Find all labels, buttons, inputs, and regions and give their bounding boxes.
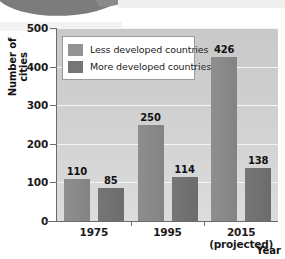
y-axis-tick-label-wrap: 100: [10, 176, 48, 188]
chart-legend: Less developed countries More developed …: [62, 36, 195, 80]
y-axis-tick-label: 500: [18, 22, 48, 34]
x-axis-tick-label: 1975: [57, 226, 131, 238]
legend-label-less-developed: Less developed countries: [90, 44, 208, 55]
gridline: [57, 28, 278, 29]
gridline: [57, 144, 278, 145]
y-axis-tick-label-wrap: 200: [10, 138, 48, 150]
y-axis-tick-label-wrap: 400: [10, 61, 48, 73]
bar-1995-more-developed: [172, 177, 198, 221]
bar-1995-less-developed: [138, 125, 164, 222]
legend-item-less-developed: Less developed countries: [68, 41, 189, 58]
gridline: [57, 105, 278, 106]
bar-1975-less-developed: [64, 179, 90, 221]
bar-chart: Number of cities 5004003002001000 110852…: [0, 0, 285, 259]
bar-value-label: 426: [205, 44, 243, 55]
x-axis-tick-label: 1995: [131, 226, 205, 238]
legend-swatch-more-developed: [68, 61, 83, 73]
x-axis-tick-label-year: 1975: [80, 226, 108, 238]
y-axis-tick-label: 0: [18, 215, 48, 227]
legend-swatch-less-developed: [68, 44, 83, 56]
x-axis-title: Year: [256, 245, 281, 256]
y-axis-tick-label: 100: [18, 176, 48, 188]
bar-2015-more-developed: [245, 168, 271, 221]
y-axis-tick-label: 200: [18, 138, 48, 150]
y-axis-tick-label-wrap: 300: [10, 99, 48, 111]
x-axis-tick-label-year: 1995: [153, 226, 181, 238]
legend-item-more-developed: More developed countries: [68, 58, 189, 75]
legend-label-more-developed: More developed countries: [90, 61, 211, 72]
bar-value-label: 85: [92, 175, 130, 186]
bar-2015-less-developed: [211, 57, 237, 221]
x-axis-line: [46, 221, 278, 222]
bar-1975-more-developed: [98, 188, 124, 221]
bar-value-label: 250: [132, 112, 170, 123]
bar-value-label: 114: [166, 164, 204, 175]
y-axis-tick-label-wrap: 0: [10, 215, 48, 227]
y-axis-tick-label: 300: [18, 99, 48, 111]
bar-value-label: 138: [239, 155, 277, 166]
y-axis-tick-label-wrap: 500: [10, 22, 48, 34]
chart-screenshot: Number of cities 5004003002001000 110852…: [0, 0, 285, 259]
bar-value-label: 110: [58, 166, 96, 177]
x-axis-tick-label-year: 2015: [227, 226, 255, 238]
y-axis-tick-label: 400: [18, 61, 48, 73]
y-axis-line: [56, 28, 57, 222]
